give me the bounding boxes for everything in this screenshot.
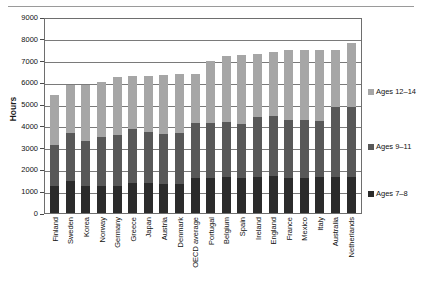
- bar-column[interactable]: Norway: [94, 19, 110, 213]
- legend-item[interactable]: Ages 7–8: [368, 190, 408, 198]
- bar-column[interactable]: OECD average: [187, 19, 203, 213]
- stacked-bar[interactable]: [222, 56, 231, 213]
- stacked-bar[interactable]: [284, 50, 293, 213]
- bar-column[interactable]: Spain: [234, 19, 250, 213]
- bar-segment[interactable]: [175, 133, 184, 184]
- bar-segment[interactable]: [253, 117, 262, 178]
- bar-segment[interactable]: [144, 132, 153, 183]
- bar-column[interactable]: Australia: [328, 19, 344, 213]
- bar-segment[interactable]: [237, 55, 246, 124]
- bar-column[interactable]: Finland: [47, 19, 63, 213]
- bar-segment[interactable]: [222, 122, 231, 177]
- bar-segment[interactable]: [206, 123, 215, 178]
- bar-segment[interactable]: [159, 184, 168, 213]
- bar-segment[interactable]: [315, 50, 324, 121]
- bar-segment[interactable]: [66, 181, 75, 213]
- bar-segment[interactable]: [331, 50, 340, 107]
- bar-column[interactable]: Mexico: [297, 19, 313, 213]
- stacked-bar[interactable]: [191, 74, 200, 213]
- bar-segment[interactable]: [206, 178, 215, 213]
- bar-column[interactable]: Ireland: [250, 19, 266, 213]
- stacked-bar[interactable]: [50, 95, 59, 213]
- bar-segment[interactable]: [284, 120, 293, 177]
- stacked-bar[interactable]: [113, 77, 122, 213]
- bar-segment[interactable]: [81, 186, 90, 213]
- bar-segment[interactable]: [113, 186, 122, 213]
- legend-item[interactable]: Ages 9–11: [368, 143, 411, 151]
- bar-segment[interactable]: [66, 133, 75, 182]
- bar-segment[interactable]: [269, 52, 278, 116]
- bar-segment[interactable]: [315, 121, 324, 177]
- stacked-bar[interactable]: [315, 50, 324, 213]
- bar-segment[interactable]: [128, 183, 137, 213]
- bar-segment[interactable]: [237, 178, 246, 213]
- bar-segment[interactable]: [237, 124, 246, 178]
- bar-segment[interactable]: [144, 76, 153, 132]
- bar-segment[interactable]: [175, 74, 184, 133]
- stacked-bar[interactable]: [144, 76, 153, 213]
- bar-segment[interactable]: [347, 43, 356, 107]
- bar-segment[interactable]: [50, 95, 59, 145]
- bar-segment[interactable]: [331, 107, 340, 177]
- bar-column[interactable]: Korea: [78, 19, 94, 213]
- bar-segment[interactable]: [206, 61, 215, 123]
- stacked-bar[interactable]: [253, 54, 262, 213]
- stacked-bar[interactable]: [300, 50, 309, 213]
- bar-segment[interactable]: [222, 56, 231, 122]
- bar-segment[interactable]: [159, 75, 168, 135]
- bar-column[interactable]: Sweden: [63, 19, 79, 213]
- bar-segment[interactable]: [128, 76, 137, 128]
- bar-segment[interactable]: [253, 54, 262, 117]
- bar-segment[interactable]: [269, 176, 278, 213]
- bar-segment[interactable]: [97, 137, 106, 186]
- bar-segment[interactable]: [81, 141, 90, 186]
- bar-segment[interactable]: [113, 77, 122, 135]
- bar-segment[interactable]: [347, 107, 356, 176]
- bar-column[interactable]: France: [281, 19, 297, 213]
- bar-segment[interactable]: [300, 120, 309, 177]
- stacked-bar[interactable]: [347, 43, 356, 213]
- bar-segment[interactable]: [284, 178, 293, 213]
- bar-segment[interactable]: [50, 186, 59, 213]
- bar-segment[interactable]: [222, 177, 231, 213]
- stacked-bar[interactable]: [128, 76, 137, 213]
- stacked-bar[interactable]: [269, 52, 278, 213]
- bar-column[interactable]: Portugal: [203, 19, 219, 213]
- stacked-bar[interactable]: [81, 85, 90, 213]
- bar-column[interactable]: Netherlands: [343, 19, 359, 213]
- bar-segment[interactable]: [159, 134, 168, 183]
- bar-segment[interactable]: [175, 184, 184, 213]
- bar-segment[interactable]: [300, 178, 309, 213]
- bar-segment[interactable]: [347, 177, 356, 213]
- bar-segment[interactable]: [191, 178, 200, 213]
- bar-segment[interactable]: [191, 123, 200, 178]
- bar-column[interactable]: Austria: [156, 19, 172, 213]
- stacked-bar[interactable]: [159, 75, 168, 213]
- bar-segment[interactable]: [66, 85, 75, 133]
- legend-item[interactable]: Ages 12–14: [368, 88, 416, 96]
- bar-column[interactable]: Japan: [141, 19, 157, 213]
- bar-segment[interactable]: [97, 82, 106, 137]
- bar-segment[interactable]: [97, 186, 106, 213]
- stacked-bar[interactable]: [97, 82, 106, 213]
- stacked-bar[interactable]: [237, 55, 246, 213]
- bar-segment[interactable]: [50, 145, 59, 186]
- bar-segment[interactable]: [81, 85, 90, 141]
- bar-column[interactable]: Italy: [312, 19, 328, 213]
- stacked-bar[interactable]: [331, 50, 340, 213]
- bar-column[interactable]: Belgium: [219, 19, 235, 213]
- bar-segment[interactable]: [331, 177, 340, 213]
- bar-segment[interactable]: [113, 135, 122, 187]
- stacked-bar[interactable]: [175, 74, 184, 213]
- bar-column[interactable]: Germany: [109, 19, 125, 213]
- bar-segment[interactable]: [269, 116, 278, 176]
- bar-segment[interactable]: [315, 177, 324, 213]
- bar-column[interactable]: England: [265, 19, 281, 213]
- bar-column[interactable]: Denmark: [172, 19, 188, 213]
- bar-segment[interactable]: [191, 74, 200, 123]
- bar-segment[interactable]: [284, 50, 293, 121]
- bar-segment[interactable]: [144, 183, 153, 213]
- bar-column[interactable]: Greece: [125, 19, 141, 213]
- bar-segment[interactable]: [300, 50, 309, 120]
- stacked-bar[interactable]: [206, 61, 215, 213]
